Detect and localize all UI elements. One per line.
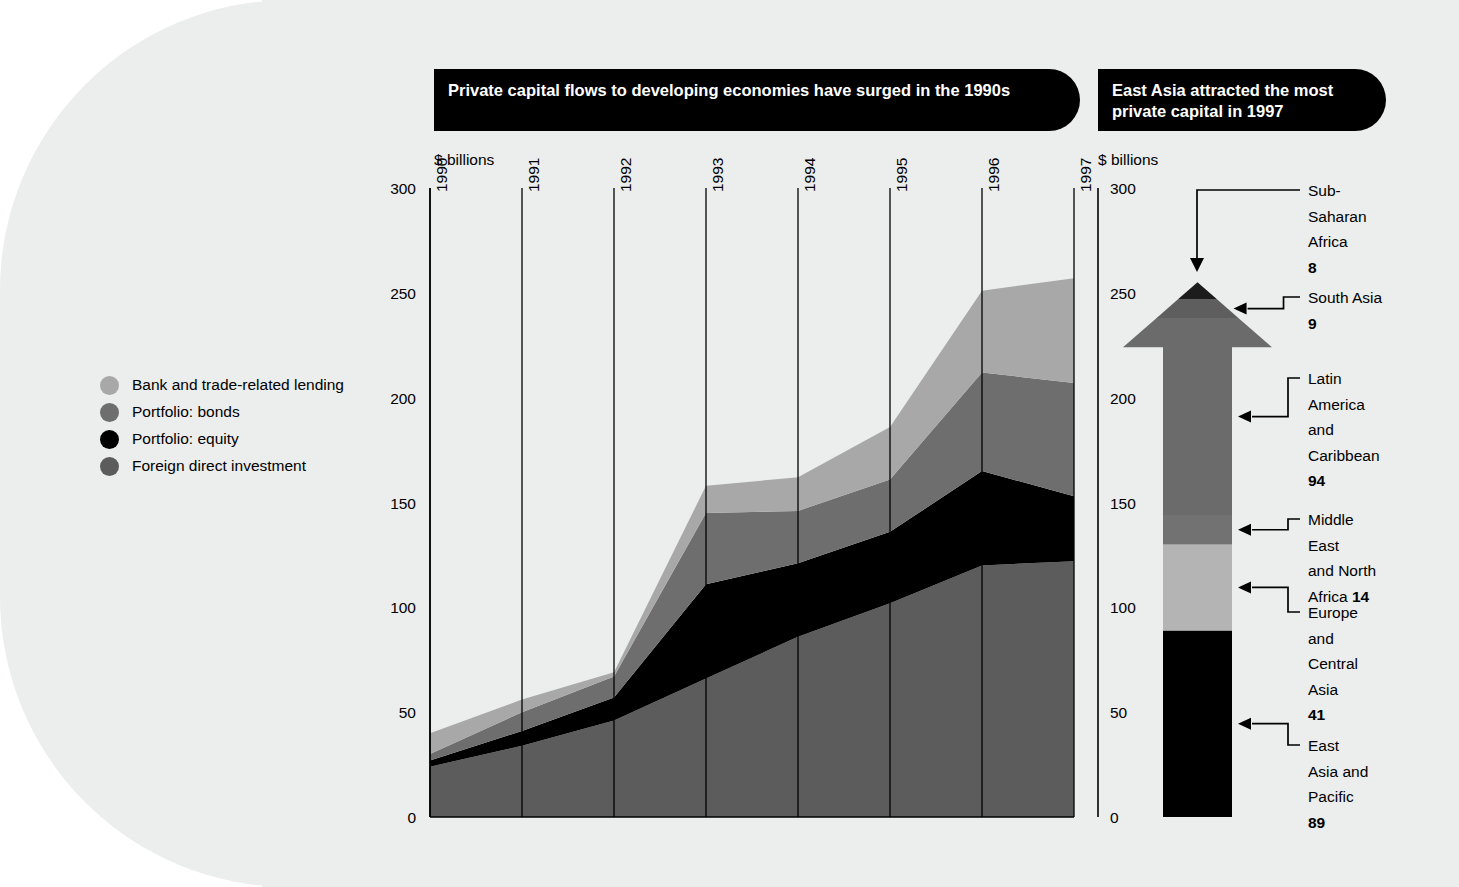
side-y-tick-250: 250: [1110, 285, 1136, 302]
callout-label-line: Africa: [1308, 233, 1348, 250]
callout-leader-line: [1252, 724, 1300, 745]
callout-label-line: Latin: [1308, 370, 1342, 387]
callout-leader-line: [1248, 297, 1300, 309]
callout-value: 89: [1308, 814, 1326, 831]
callout-label-line: East: [1308, 537, 1340, 554]
callout-label-line: Europe: [1308, 604, 1358, 621]
callout-leader-line: [1252, 378, 1300, 417]
callout-value: 94: [1308, 472, 1326, 489]
callout-east-asia-and-pacific: EastAsia andPacific89: [1252, 724, 1368, 831]
callout-europe-and-central-asia: EuropeandCentralAsia41: [1252, 587, 1358, 723]
callout-arrowhead-icon: [1234, 303, 1247, 315]
callout-value: 14: [1348, 588, 1370, 605]
callout-label-line: Sub-: [1308, 182, 1341, 199]
callout-label-line: and: [1308, 630, 1334, 647]
callout-arrowhead-icon: [1238, 718, 1251, 730]
callout-leader-line: [1197, 190, 1300, 262]
callout-label-line: Central: [1308, 655, 1358, 672]
arrow-breakdown-chart: 050100150200250300EastAsia andPacific89E…: [0, 0, 1459, 887]
callout-leader-line: [1252, 587, 1300, 612]
arrow-segment-europe-and-central-asia: [1163, 544, 1232, 630]
callout-label-line: East: [1308, 737, 1340, 754]
callout-label-line: Asia: [1308, 681, 1339, 698]
side-y-tick-100: 100: [1110, 599, 1136, 616]
callout-label-line: Caribbean: [1308, 447, 1380, 464]
arrow-segment-middle-east-and-north-africa: [1163, 515, 1232, 544]
callout-value: 8: [1308, 259, 1317, 276]
side-y-tick-200: 200: [1110, 390, 1136, 407]
callout-sub-saharan-africa: Sub-SaharanAfrica8: [1197, 182, 1367, 276]
side-y-tick-300: 300: [1110, 180, 1136, 197]
page-panel: Private capital flows to developing econ…: [0, 0, 1459, 887]
callout-latin-america-and-caribbean: LatinAmericaandCaribbean94: [1252, 370, 1380, 489]
callout-arrowhead-icon: [1238, 581, 1251, 593]
callout-label-line: South Asia: [1308, 289, 1382, 306]
arrow-segment-east-asia-and-pacific: [1163, 630, 1232, 817]
callout-arrowhead-icon: [1238, 524, 1251, 536]
side-y-tick-0: 0: [1110, 809, 1119, 826]
callout-label-line: Middle: [1308, 511, 1354, 528]
callout-value: 9: [1308, 315, 1317, 332]
callout-label-line: and North: [1308, 562, 1376, 579]
callout-arrowhead-icon: [1238, 411, 1251, 423]
arrow-segment-sub-saharan-africa: [1178, 282, 1216, 299]
side-y-tick-150: 150: [1110, 495, 1136, 512]
callout-label-line: Pacific: [1308, 788, 1354, 805]
callout-value: 41: [1308, 706, 1326, 723]
arrow-segment-south-asia: [1157, 299, 1239, 318]
callout-leader-line: [1252, 519, 1300, 530]
side-y-tick-50: 50: [1110, 704, 1128, 721]
callout-south-asia: South Asia9: [1248, 289, 1383, 332]
callout-label-line: and: [1308, 421, 1334, 438]
callout-middle-east-and-north-africa: MiddleEastand NorthAfrica 14: [1252, 511, 1376, 605]
callout-label-line: Asia and: [1308, 763, 1368, 780]
callout-label-line: Africa 14: [1308, 588, 1370, 605]
callout-label-line: Saharan: [1308, 208, 1367, 225]
callout-arrowhead-icon: [1190, 258, 1204, 272]
callout-label-line: America: [1308, 396, 1365, 413]
